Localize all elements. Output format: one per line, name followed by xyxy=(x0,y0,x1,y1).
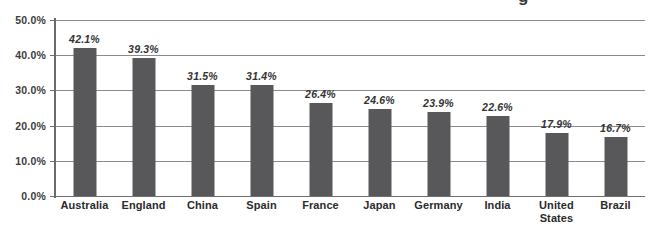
y-axis-tick-label: 50.0% xyxy=(15,14,46,26)
bar-value-label: 17.9% xyxy=(541,118,572,130)
bar-slot: 24.6% xyxy=(350,20,409,196)
bar-value-label: 42.1% xyxy=(69,33,100,45)
bar[interactable] xyxy=(191,85,214,196)
bar[interactable] xyxy=(427,112,450,196)
bar-value-label: 16.7% xyxy=(600,122,631,134)
cropped-title-text: g xyxy=(518,0,529,7)
x-axis-category-label: Brazil xyxy=(586,199,645,212)
bar-series: 42.1%39.3%31.5%31.4%26.4%24.6%23.9%22.6%… xyxy=(55,20,645,196)
bar-slot: 16.7% xyxy=(586,20,645,196)
bar[interactable] xyxy=(368,109,391,196)
x-axis-category-label: Spain xyxy=(232,199,291,212)
bar-value-label: 23.9% xyxy=(423,97,454,109)
bar-slot: 39.3% xyxy=(114,20,173,196)
bar[interactable] xyxy=(604,137,627,196)
x-axis-category-label: India xyxy=(468,199,527,212)
y-axis-tick-label: 40.0% xyxy=(15,49,46,61)
bar-value-label: 24.6% xyxy=(364,94,395,106)
x-axis-category-label: France xyxy=(291,199,350,212)
bar-slot: 42.1% xyxy=(55,20,114,196)
bar[interactable] xyxy=(309,103,332,196)
bar-slot: 31.5% xyxy=(173,20,232,196)
bar-slot: 17.9% xyxy=(527,20,586,196)
bar[interactable] xyxy=(250,85,273,196)
bar-value-label: 26.4% xyxy=(305,88,336,100)
bar-chart: g 50.0%40.0%30.0%20.0%10.0%0.0% 42.1%39.… xyxy=(0,0,656,248)
bar-value-label: 22.6% xyxy=(482,101,513,113)
y-axis-tick-label: 20.0% xyxy=(15,120,46,132)
x-axis-category-label: Japan xyxy=(350,199,409,212)
bar-value-label: 31.4% xyxy=(246,70,277,82)
bar[interactable] xyxy=(132,58,155,196)
bar-value-label: 31.5% xyxy=(187,70,218,82)
y-axis-tick-label: 0.0% xyxy=(21,190,46,202)
x-axis-category-label: United States xyxy=(527,199,586,224)
bar-slot: 22.6% xyxy=(468,20,527,196)
bar[interactable] xyxy=(486,116,509,196)
bar[interactable] xyxy=(545,133,568,196)
y-axis-labels: 50.0%40.0%30.0%20.0%10.0%0.0% xyxy=(0,0,50,248)
y-axis-tick-label: 30.0% xyxy=(15,84,46,96)
y-axis-tick-label: 10.0% xyxy=(15,155,46,167)
x-axis-category-label: Germany xyxy=(409,199,468,212)
x-axis-labels: AustraliaEnglandChinaSpainFranceJapanGer… xyxy=(55,199,645,245)
x-axis-category-label: China xyxy=(173,199,232,212)
bar-slot: 23.9% xyxy=(409,20,468,196)
bar-slot: 31.4% xyxy=(232,20,291,196)
bar-slot: 26.4% xyxy=(291,20,350,196)
cropped-chart-title: g xyxy=(0,0,656,9)
bar-value-label: 39.3% xyxy=(128,43,159,55)
x-axis-line xyxy=(55,196,645,197)
bar[interactable] xyxy=(73,48,96,196)
x-axis-category-label: England xyxy=(114,199,173,212)
x-axis-category-label: Australia xyxy=(55,199,114,212)
